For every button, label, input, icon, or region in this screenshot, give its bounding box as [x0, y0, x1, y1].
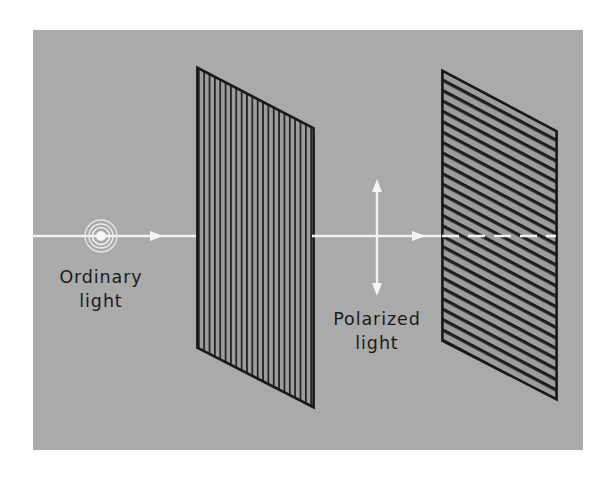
first-polarizer [197, 67, 314, 408]
ordinary-light-label-line1: Ordinary [59, 267, 142, 287]
polarization-figure: Ordinary light Polarized light [0, 0, 613, 479]
polarized-light-label-line1: Polarized [333, 309, 420, 329]
polarized-light-label-line2: light [355, 333, 398, 353]
ordinary-light-label-line2: light [79, 291, 122, 311]
